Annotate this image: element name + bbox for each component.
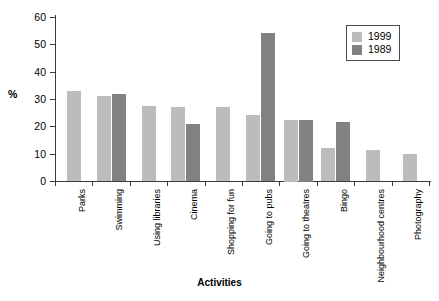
bar xyxy=(112,94,126,181)
x-tick xyxy=(429,181,430,186)
y-tick-label: 40 xyxy=(0,67,46,78)
x-tick xyxy=(167,181,168,186)
x-tick xyxy=(55,181,56,186)
y-tick xyxy=(50,72,55,73)
x-category-label: Bingo xyxy=(340,189,349,212)
bar xyxy=(171,107,185,181)
x-tick xyxy=(317,181,318,186)
bar xyxy=(321,148,335,181)
bar xyxy=(336,122,350,181)
x-category-label: Shopping for fun xyxy=(227,189,236,255)
y-tick xyxy=(50,126,55,127)
y-tick-label: 20 xyxy=(0,121,46,132)
bar xyxy=(284,120,298,182)
bar xyxy=(142,106,156,181)
y-tick xyxy=(50,154,55,155)
bar xyxy=(299,120,313,182)
y-tick-label: 50 xyxy=(0,39,46,50)
x-category-label: Going to theatres xyxy=(302,189,311,258)
x-category-label: Using libraries xyxy=(153,189,162,246)
x-tick xyxy=(392,181,393,186)
bar xyxy=(261,33,275,181)
bar xyxy=(186,124,200,181)
y-tick-label: 60 xyxy=(0,12,46,23)
legend: 1999 1989 xyxy=(346,25,400,61)
y-tick-label: 30 xyxy=(0,94,46,105)
bar xyxy=(403,154,417,181)
bar xyxy=(97,96,111,181)
y-tick-label: 10 xyxy=(0,149,46,160)
x-category-label: Neighbourhood centres xyxy=(377,189,386,283)
x-axis-title: Activities xyxy=(0,277,439,288)
x-category-label: Cinema xyxy=(190,189,199,220)
y-tick xyxy=(50,17,55,18)
x-category-label: Going to pubs xyxy=(265,189,274,245)
x-category-label: Parks xyxy=(78,189,87,212)
x-tick xyxy=(130,181,131,186)
x-tick xyxy=(279,181,280,186)
bar xyxy=(366,150,380,181)
bar xyxy=(67,91,81,181)
legend-item: 1999 xyxy=(352,30,391,43)
legend-label-1999: 1999 xyxy=(368,31,391,42)
x-tick xyxy=(354,181,355,186)
x-axis-line xyxy=(55,181,431,182)
bar xyxy=(216,107,230,181)
x-tick xyxy=(242,181,243,186)
legend-swatch-1999 xyxy=(352,32,362,42)
bar-chart: % 0102030405060 ParksSwimmingUsing libra… xyxy=(0,0,439,301)
y-tick xyxy=(50,44,55,45)
y-tick-label: 0 xyxy=(0,176,46,187)
x-tick xyxy=(92,181,93,186)
bar xyxy=(246,115,260,181)
y-tick xyxy=(50,99,55,100)
legend-swatch-1989 xyxy=(352,45,362,55)
x-category-label: Swimming xyxy=(115,189,124,231)
x-tick xyxy=(205,181,206,186)
legend-item: 1989 xyxy=(352,43,391,56)
legend-label-1989: 1989 xyxy=(368,44,391,55)
x-category-label: Photography xyxy=(414,189,423,240)
